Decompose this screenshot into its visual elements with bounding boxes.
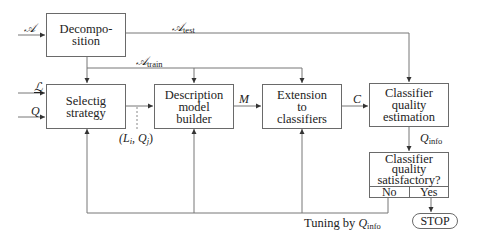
classifier-quality-estimation-box: Classifier quality estimation [369, 83, 449, 127]
label-q-info-sub: info [429, 136, 443, 146]
label-input-l-text: ℒ [34, 80, 43, 94]
label-input-q: Q [31, 104, 40, 119]
extension-line3: classifiers [277, 113, 327, 125]
selecting-strategy-box: Selectig strategy [46, 84, 126, 129]
label-a-train: 𝒜train [136, 54, 163, 69]
li-mid: , Q [132, 131, 147, 145]
builder-line2: model [178, 101, 209, 113]
classifier-quality-satisfactory-box: Classifier quality satisfactory? No Yes [369, 152, 449, 198]
label-input-q-text: Q [31, 104, 40, 118]
decomposition-box: Decompo- sition [46, 13, 126, 57]
label-input-a: 𝒜 [24, 21, 35, 36]
estimation-line3: estimation [383, 111, 435, 123]
label-a-train-main: 𝒜 [136, 54, 147, 68]
tuning-prefix: Tuning by [304, 216, 358, 230]
label-a-train-sub: train [147, 59, 163, 69]
description-model-builder-box: Description model builder [154, 84, 234, 129]
label-tuning: Tuning by Qinfo [304, 216, 381, 231]
label-a-test: 𝒜test [172, 20, 195, 35]
stop-terminal: STOP [412, 213, 458, 229]
selecting-line2: strategy [66, 107, 106, 119]
tuning-q-sub: info [367, 221, 381, 231]
extension-line1: Extension [277, 89, 327, 101]
decision-options: No Yes [370, 186, 448, 198]
label-m: M [239, 92, 249, 107]
decision-yes: Yes [410, 187, 449, 198]
extension-line2: to [297, 101, 307, 113]
builder-line1: Description [165, 89, 223, 101]
label-q-info-main: Q [420, 131, 429, 145]
tuning-q-main: Q [358, 216, 367, 230]
li-close: ) [149, 131, 153, 145]
label-input-l: ℒ [34, 80, 43, 95]
label-input-a-text: 𝒜 [24, 21, 35, 35]
builder-line3: builder [176, 113, 211, 125]
selecting-line1: Selectig [66, 95, 106, 107]
decision-no: No [370, 187, 410, 198]
label-c: C [353, 92, 361, 107]
extension-to-classifiers-box: Extension to classifiers [262, 84, 342, 129]
decision-question: Classifier quality satisfactory? [370, 153, 448, 186]
li-open: (L [119, 131, 130, 145]
feedback-line [87, 197, 388, 213]
label-m-text: M [239, 92, 249, 106]
label-a-test-sub: test [183, 25, 195, 35]
decomposition-line2: sition [72, 35, 100, 47]
label-li-qj: (Li, Qj) [119, 131, 153, 146]
label-c-text: C [353, 92, 361, 106]
stop-label: STOP [420, 214, 449, 229]
decision-line3: satisfactory? [377, 175, 440, 186]
label-q-info: Qinfo [420, 131, 442, 146]
tuning-q: Qinfo [358, 216, 380, 230]
label-a-test-main: 𝒜 [172, 20, 183, 34]
arrow-a-test [126, 33, 409, 82]
